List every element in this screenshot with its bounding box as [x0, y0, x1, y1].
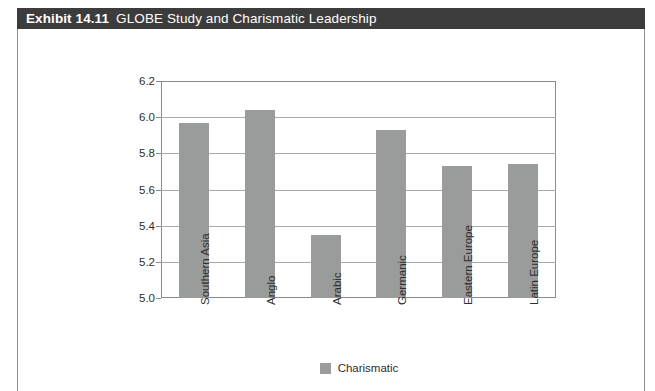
gridline [161, 117, 556, 118]
chart-area: 6.26.05.85.65.45.25.0 Southern AsiaAnglo… [144, 55, 574, 388]
y-tick-mark [156, 117, 161, 118]
exhibit-number: Exhibit 14.11 [26, 11, 109, 26]
gridline [161, 262, 556, 263]
y-tick-label: 5.2 [115, 256, 155, 268]
y-tick-mark [156, 298, 161, 299]
y-tick-label: 5.6 [115, 184, 155, 196]
y-tick-label: 5.8 [115, 147, 155, 159]
legend-swatch-charismatic [320, 363, 331, 374]
gridline [161, 190, 556, 191]
x-tick-label: Latin Europe [528, 240, 540, 305]
exhibit-panel: 6.26.05.85.65.45.25.0 Southern AsiaAnglo… [17, 29, 645, 391]
gridline [161, 226, 556, 227]
bar [245, 110, 275, 298]
y-tick-label: 5.4 [115, 220, 155, 232]
y-tick-label: 6.2 [115, 75, 155, 87]
exhibit-figure: Exhibit 14.11 GLOBE Study and Charismati… [0, 0, 655, 391]
exhibit-title-bar: Exhibit 14.11 GLOBE Study and Charismati… [17, 8, 645, 29]
x-tick-label: Anglo [265, 276, 277, 305]
chart-legend: Charismatic [144, 362, 574, 374]
x-tick-label: Southern Asia [199, 233, 211, 305]
x-tick-label: Arabic [331, 272, 343, 305]
y-tick-mark [156, 262, 161, 263]
exhibit-title: GLOBE Study and Charismatic Leadership [116, 11, 376, 26]
y-tick-mark [156, 226, 161, 227]
x-tick-label: Eastern Europe [462, 225, 474, 305]
legend-label-charismatic: Charismatic [338, 362, 399, 374]
gridline [161, 153, 556, 154]
y-tick-mark [156, 81, 161, 82]
y-tick-mark [156, 153, 161, 154]
y-tick-label: 5.0 [115, 292, 155, 304]
x-tick-label: Germanic [396, 255, 408, 305]
y-tick-mark [156, 190, 161, 191]
y-tick-label: 6.0 [115, 111, 155, 123]
